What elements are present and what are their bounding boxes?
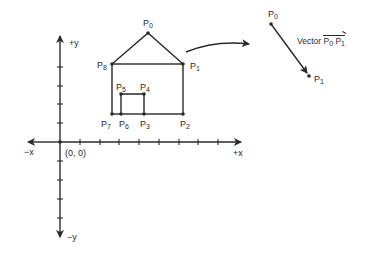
vector-start-label: P0 [268,9,278,19]
point-label-p4: P4 [140,82,150,92]
transition-arrow [186,43,249,52]
house-door [121,94,144,114]
vector-end-label: P1 [314,74,324,84]
pos-y-label: +y [69,38,79,48]
coordinate-axes [28,36,241,237]
origin-label: (0, 0) [65,148,86,158]
house-roof [112,33,183,64]
house-shape [112,33,183,114]
origin-point [58,140,62,144]
vector-notation: P0 P1 [323,36,345,46]
point-label-p5: P5 [116,82,126,92]
point-label-p2: P2 [180,119,190,129]
point-label-p0: P0 [143,18,153,28]
point-label-p8: P8 [97,60,107,70]
vector-end-point [307,74,311,78]
vector-label: Vector P0 P1 [297,36,345,46]
pos-x-label: +x [233,148,243,158]
neg-x-label: −x [24,147,34,157]
neg-y-label: −y [67,232,77,242]
point-label-p6: P6 [119,119,129,129]
vector-label-prefix: Vector [297,36,321,46]
vector-line [271,24,307,73]
point-label-p1: P1 [190,61,200,71]
point-label-p7: P7 [101,119,111,129]
vector-start-point [269,22,273,26]
point-label-p3: P3 [140,119,150,129]
